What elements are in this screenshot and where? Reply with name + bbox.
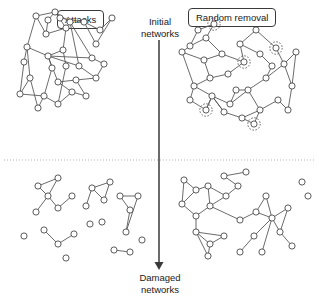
network-node bbox=[55, 101, 61, 107]
network-node bbox=[191, 83, 197, 89]
network-edge bbox=[210, 206, 240, 220]
network-node bbox=[89, 185, 95, 191]
network-node bbox=[251, 121, 257, 127]
network-node bbox=[99, 219, 105, 225]
panel-bottom-left bbox=[21, 175, 145, 261]
network-node bbox=[43, 31, 49, 37]
network-node bbox=[221, 233, 227, 239]
network-node bbox=[277, 229, 283, 235]
network-edge bbox=[20, 94, 44, 96]
network-node bbox=[245, 87, 251, 93]
network-node bbox=[27, 75, 33, 81]
network-node bbox=[73, 77, 79, 83]
network-node bbox=[269, 215, 275, 221]
network-node bbox=[67, 19, 73, 25]
network-node bbox=[33, 13, 39, 19]
network-node bbox=[101, 61, 107, 67]
network-node bbox=[207, 241, 213, 247]
network-node bbox=[52, 9, 58, 15]
network-node bbox=[235, 183, 241, 189]
network-node bbox=[233, 87, 239, 93]
network-node bbox=[81, 19, 87, 25]
network-node bbox=[243, 169, 249, 175]
network-edge bbox=[182, 52, 194, 86]
network-node bbox=[263, 193, 269, 199]
network-node bbox=[55, 205, 61, 211]
network-node bbox=[205, 253, 211, 259]
network-node bbox=[21, 59, 27, 65]
network-node bbox=[71, 231, 77, 237]
network-node bbox=[193, 229, 199, 235]
network-node bbox=[111, 247, 117, 253]
network-node bbox=[237, 41, 243, 47]
network-edge bbox=[27, 16, 36, 47]
network-node bbox=[83, 203, 89, 209]
network-node bbox=[209, 93, 215, 99]
network-edge bbox=[256, 30, 276, 48]
network-node bbox=[83, 93, 89, 99]
network-node bbox=[139, 237, 145, 243]
panel-bottom-right bbox=[179, 169, 311, 259]
network-node bbox=[305, 193, 311, 199]
network-node bbox=[24, 44, 30, 50]
network-node bbox=[49, 65, 55, 71]
network-node bbox=[117, 193, 123, 199]
network-node bbox=[89, 55, 95, 61]
network-canvas bbox=[0, 0, 319, 304]
network-node bbox=[289, 83, 295, 89]
network-node bbox=[93, 41, 99, 47]
network-node bbox=[187, 97, 193, 103]
network-node bbox=[60, 47, 66, 53]
network-node bbox=[281, 61, 287, 67]
network-node bbox=[285, 205, 291, 211]
network-node bbox=[179, 201, 185, 207]
network-node bbox=[35, 183, 41, 189]
network-node bbox=[253, 209, 259, 215]
network-node bbox=[257, 51, 263, 57]
network-node bbox=[257, 107, 263, 113]
network-node bbox=[203, 107, 209, 113]
network-node bbox=[97, 27, 103, 33]
network-node bbox=[221, 173, 227, 179]
network-node bbox=[299, 179, 305, 185]
network-node bbox=[41, 93, 47, 99]
network-node bbox=[263, 75, 269, 81]
network-node bbox=[123, 229, 129, 235]
network-node bbox=[239, 115, 245, 121]
network-edge bbox=[44, 68, 52, 96]
network-edge bbox=[292, 52, 296, 86]
network-node bbox=[251, 233, 257, 239]
network-node bbox=[69, 193, 75, 199]
network-node bbox=[57, 15, 63, 21]
network-node bbox=[187, 43, 193, 49]
network-node bbox=[211, 21, 217, 27]
network-node bbox=[21, 233, 27, 239]
network-node bbox=[275, 97, 281, 103]
network-node bbox=[63, 255, 69, 261]
network-node bbox=[237, 217, 243, 223]
network-node bbox=[69, 89, 75, 95]
network-edge bbox=[288, 86, 292, 110]
network-node bbox=[127, 249, 133, 255]
network-node bbox=[109, 15, 115, 21]
network-node bbox=[76, 63, 82, 69]
network-node bbox=[259, 249, 265, 255]
network-node bbox=[285, 107, 291, 113]
network-node bbox=[87, 221, 93, 227]
network-edge bbox=[126, 196, 138, 232]
network-node bbox=[207, 75, 213, 81]
network-node bbox=[253, 27, 259, 33]
network-robustness-figure: Attacks Random removal Initial networks … bbox=[0, 0, 319, 304]
network-edge bbox=[30, 78, 38, 108]
network-node bbox=[179, 49, 185, 55]
network-node bbox=[135, 193, 141, 199]
network-node bbox=[107, 179, 113, 185]
network-node bbox=[237, 249, 243, 255]
network-node bbox=[55, 79, 61, 85]
network-node bbox=[207, 203, 213, 209]
network-node bbox=[55, 241, 61, 247]
network-node bbox=[203, 35, 209, 41]
network-node bbox=[33, 209, 39, 215]
network-node bbox=[289, 243, 295, 249]
network-node bbox=[45, 17, 51, 23]
